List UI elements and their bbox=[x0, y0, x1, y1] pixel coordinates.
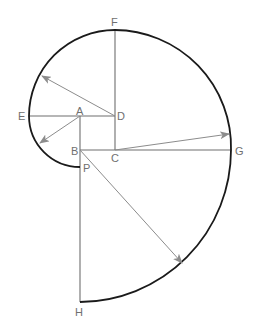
label-A: A bbox=[76, 105, 84, 117]
arrow-radius-C bbox=[115, 134, 229, 150]
arrow-radius-A bbox=[40, 116, 80, 143]
label-P: P bbox=[83, 162, 90, 174]
arrow-radius-B bbox=[80, 150, 182, 263]
spiral-curve bbox=[29, 30, 231, 302]
point-labels: F E A D B C G P H bbox=[18, 16, 244, 318]
label-B: B bbox=[71, 145, 78, 157]
label-E: E bbox=[18, 110, 25, 122]
radius-arrows bbox=[40, 76, 229, 263]
label-G: G bbox=[235, 145, 244, 157]
label-C: C bbox=[111, 152, 119, 164]
spiral-diagram: F E A D B C G P H bbox=[0, 0, 254, 327]
construction-lines bbox=[29, 31, 231, 302]
label-D: D bbox=[117, 110, 125, 122]
label-F: F bbox=[111, 16, 118, 28]
label-H: H bbox=[75, 306, 83, 318]
